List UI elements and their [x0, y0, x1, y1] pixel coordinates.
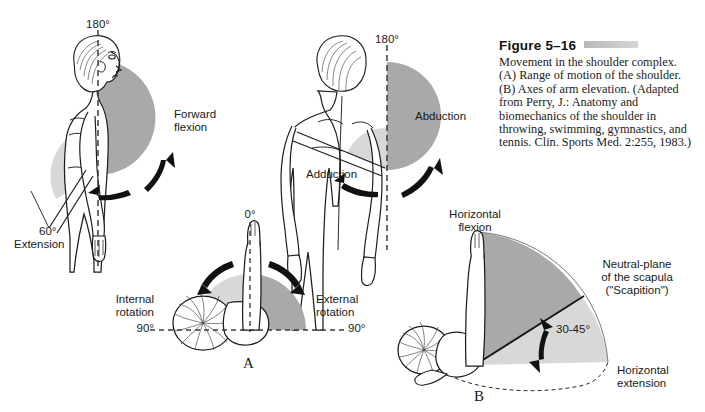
internal-rotation-angle: 90°	[92, 322, 154, 335]
external-rotation-angle: 90°	[348, 322, 365, 335]
frontal-figure	[281, 36, 443, 330]
transverse-figure	[398, 231, 608, 391]
figure-number: Figure 5–16	[499, 38, 576, 53]
rotation-top-angle: 0°	[230, 208, 270, 221]
rotation-forearm	[243, 221, 261, 330]
adduction-label: Adduction	[306, 168, 357, 181]
horizontal-extension-line2: extension	[617, 377, 666, 390]
scaption-angle-label: 30-45°	[556, 323, 590, 336]
figure-caption-block: Figure 5–16 Movement in the shoulder com…	[499, 36, 699, 150]
caption-rule	[584, 41, 638, 48]
horizontal-flexion-line1: Horizontal	[435, 208, 515, 221]
scapula-plane-line3: ("Scapition")	[582, 284, 692, 297]
sagittal-ear	[99, 62, 105, 72]
frontal-head	[317, 36, 366, 91]
panel-b-letter: B	[474, 388, 484, 405]
forward-flexion-label-line2: flexion	[174, 121, 207, 134]
internal-rotation-line2: rotation	[92, 306, 154, 319]
horizontal-extension-line1: Horizontal	[617, 364, 669, 377]
transverse-arm	[466, 231, 485, 366]
sagittal-top-angle: 180°	[73, 18, 123, 31]
figure-caption-text: Movement in the shoulder complex. (A) Ra…	[499, 56, 697, 150]
internal-rotation-line1: Internal	[92, 293, 154, 306]
panel-a-letter: A	[243, 355, 254, 372]
external-rotation-line1: External	[316, 293, 358, 306]
extension-angle-label: 60°	[39, 225, 56, 238]
figure-page: 180° Forward flexion 60° Extension 180° …	[0, 0, 705, 412]
scapula-plane-line2: of the scapula	[582, 271, 692, 284]
frontal-top-angle: 180°	[362, 33, 412, 46]
forward-flexion-label-line1: Forward	[174, 108, 216, 121]
extension-label: Extension	[14, 238, 65, 251]
extension-leader	[31, 191, 49, 228]
abduction-label: Abduction	[415, 110, 466, 123]
horizontal-flexion-line2: flexion	[435, 221, 515, 234]
scapula-plane-line1: Neutral-plane	[582, 258, 692, 271]
external-rotation-line2: rotation	[316, 306, 354, 319]
